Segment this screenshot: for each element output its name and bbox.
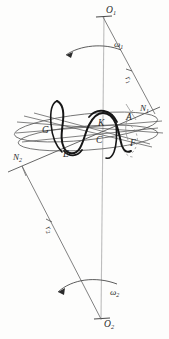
omega1-rotation-arc xyxy=(66,46,121,55)
vertical-axis-line xyxy=(101,16,104,320)
node-stub-n2-down xyxy=(22,166,26,176)
rotation-axis-group xyxy=(94,16,112,320)
omega2-rotation-arc xyxy=(58,280,117,292)
trajectory-left-tail xyxy=(51,101,62,152)
inclined-axis-lower-r2 xyxy=(22,166,101,319)
label-omega2: ω2 xyxy=(110,288,119,299)
label-point-e: E xyxy=(63,150,69,160)
axis-tick-top xyxy=(96,16,112,17)
rotation-arrows-group xyxy=(58,46,121,295)
label-point-f: F xyxy=(130,139,136,149)
label-point-g: G xyxy=(42,126,49,136)
vector-arrowheads-group xyxy=(46,69,132,222)
label-point-c: C xyxy=(96,136,102,146)
label-node-n2: N2 xyxy=(13,153,22,164)
inclined-axis-group xyxy=(22,17,155,319)
trajectory-main-curve xyxy=(57,101,131,153)
label-point-a: A xyxy=(126,113,132,123)
figure-canvas: O1 ω1 r1 N1 A K C G E F N2 r2 ω2 O2 xyxy=(0,0,169,339)
diagram-vector-graphics xyxy=(0,0,169,339)
label-point-k: K xyxy=(98,119,104,129)
label-axis-bottom-o2: O2 xyxy=(104,320,114,330)
r2-vector-arrowhead xyxy=(46,219,52,222)
label-axis-top-o1: O1 xyxy=(106,6,116,16)
inclined-axis-upper-r1 xyxy=(103,17,155,114)
label-omega1: ω1 xyxy=(114,40,123,51)
label-node-n1: N1 xyxy=(140,104,149,115)
